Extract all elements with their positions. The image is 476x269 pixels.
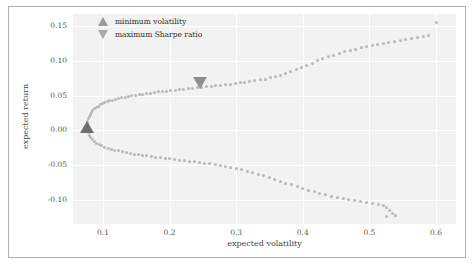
- scatter-point: [359, 200, 362, 203]
- scatter-point: [120, 96, 123, 99]
- scatter-point: [188, 160, 191, 163]
- scatter-point: [259, 78, 262, 81]
- scatter-point: [157, 90, 160, 93]
- scatter-point: [113, 149, 116, 152]
- scatter-point: [342, 197, 345, 200]
- scatter-point: [354, 48, 357, 51]
- x-tick-label: 0.4: [283, 229, 323, 237]
- scatter-point: [318, 192, 321, 195]
- legend-item-minimum-volatility: minimum volatility: [97, 16, 202, 27]
- scatter-point: [161, 90, 164, 93]
- scatter-point: [117, 149, 120, 152]
- scatter-point: [273, 178, 276, 181]
- scatter-point: [239, 81, 242, 84]
- gridline-vertical: [303, 14, 304, 224]
- scatter-point: [399, 39, 402, 42]
- scatter-point: [371, 202, 374, 205]
- scatter-point: [251, 171, 254, 174]
- scatter-point: [145, 92, 148, 95]
- scatter-point: [193, 160, 196, 163]
- scatter-point: [296, 185, 299, 188]
- scatter-point: [153, 91, 156, 94]
- y-tick-label: 0.10: [27, 57, 67, 65]
- scatter-point: [234, 82, 237, 85]
- scatter-point: [336, 196, 339, 199]
- scatter-point: [338, 52, 341, 55]
- scatter-point: [165, 90, 168, 93]
- gridline-horizontal: [73, 130, 456, 131]
- scatter-point: [360, 46, 363, 49]
- scatter-point: [262, 174, 265, 177]
- scatter-point: [279, 74, 282, 77]
- scatter-point: [164, 157, 167, 160]
- scatter-point: [103, 146, 106, 149]
- scatter-point: [264, 78, 267, 81]
- scatter-point: [284, 182, 287, 185]
- y-tick-label: -0.05: [27, 161, 67, 169]
- x-tick-label: 0.3: [216, 229, 256, 237]
- scatter-point: [229, 166, 232, 169]
- plot-panel: [73, 14, 456, 224]
- scatter-point: [203, 162, 206, 165]
- scatter-point: [178, 88, 181, 91]
- figure-frame: expected return expected volatility mini…: [8, 6, 466, 258]
- scatter-point: [343, 50, 346, 53]
- scatter-point: [174, 89, 177, 92]
- scatter-point: [268, 176, 271, 179]
- minimum-volatility-marker: [80, 121, 94, 133]
- scatter-point: [284, 72, 287, 75]
- scatter-point: [219, 164, 222, 167]
- scatter-point: [243, 81, 246, 84]
- x-tick-label: 0.2: [150, 229, 190, 237]
- scatter-point: [214, 84, 217, 87]
- y-tick-label: 0.00: [27, 126, 67, 134]
- scatter-point: [198, 161, 201, 164]
- scatter-point: [137, 153, 140, 156]
- scatter-point: [133, 153, 136, 156]
- scatter-point: [290, 183, 293, 186]
- scatter-point: [382, 42, 385, 45]
- scatter-point: [327, 55, 330, 58]
- triangle-down-icon: [97, 30, 108, 39]
- scatter-point: [121, 150, 124, 153]
- scatter-point: [289, 70, 292, 73]
- x-tick-label: 0.1: [83, 229, 123, 237]
- scatter-point: [365, 45, 368, 48]
- gridline-vertical: [170, 14, 171, 224]
- scatter-point: [332, 54, 335, 57]
- scatter-point: [149, 92, 152, 95]
- scatter-point: [214, 163, 217, 166]
- scatter-point: [404, 38, 407, 41]
- x-axis-label: expected volatility: [73, 239, 456, 248]
- maximum-sharpe-marker: [193, 77, 207, 89]
- y-tick-label: 0.05: [27, 92, 67, 100]
- y-tick-label: 0.15: [27, 22, 67, 30]
- scatter-point: [410, 37, 413, 40]
- scatter-point: [224, 165, 227, 168]
- gridline-vertical: [103, 14, 104, 224]
- scatter-point: [377, 203, 380, 206]
- scatter-point: [279, 180, 282, 183]
- scatter-point: [178, 159, 181, 162]
- scatter-point: [134, 94, 137, 97]
- scatter-point: [154, 156, 157, 159]
- scatter-point: [219, 84, 222, 87]
- scatter-point: [305, 64, 308, 67]
- scatter-point: [248, 80, 251, 83]
- scatter-point: [365, 201, 368, 204]
- scatter-point: [313, 190, 316, 193]
- scatter-point: [138, 93, 141, 96]
- scatter-point: [229, 83, 232, 86]
- scatter-point: [224, 83, 227, 86]
- scatter-point: [145, 154, 148, 157]
- scatter-point: [210, 85, 213, 88]
- scatter-point: [257, 173, 260, 176]
- legend-label: minimum volatility: [115, 18, 186, 26]
- scatter-point: [141, 154, 144, 157]
- scatter-point: [169, 89, 172, 92]
- scatter-point: [307, 189, 310, 192]
- scatter-point: [427, 34, 430, 37]
- gridline-vertical: [436, 14, 437, 224]
- scatter-point: [269, 76, 272, 79]
- gridline-vertical: [236, 14, 237, 224]
